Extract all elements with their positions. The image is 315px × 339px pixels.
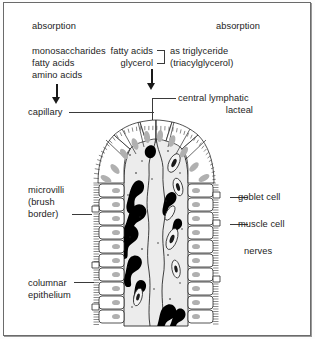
arrow-down-to-lacteal xyxy=(147,69,156,91)
label-central-lymphatic: central lymphatic xyxy=(178,93,249,105)
villus-illustration xyxy=(90,121,222,326)
diagram-frame: absorption monosaccharides fatty acids a… xyxy=(3,2,311,336)
label-columnar-line2: epithelium xyxy=(28,290,71,302)
right-columnar-epithelium xyxy=(188,184,213,323)
label-lacteal: lacteal xyxy=(178,105,253,117)
label-goblet-cell: goblet cell xyxy=(238,192,280,204)
label-nerves: nerves xyxy=(244,246,272,258)
arrow-down-to-capillary xyxy=(52,84,61,104)
label-absorption-right: absorption xyxy=(216,21,260,33)
label-microvilli-line3: border) xyxy=(28,209,58,221)
label-as-triglyceride: as triglyceride xyxy=(170,46,228,58)
right-microvilli xyxy=(213,185,219,324)
brace-triglyceride xyxy=(157,50,167,64)
label-microvilli-line1: microvilli xyxy=(28,185,64,197)
label-triacylglycerol: (triacylglycerol) xyxy=(170,58,233,70)
label-fatty-acids-right: fatty acids xyxy=(90,46,153,58)
label-microvilli-line2: (brush xyxy=(28,197,55,209)
label-columnar-line1: columnar xyxy=(28,278,67,290)
leader-capillary xyxy=(69,112,154,113)
diagram-page: absorption monosaccharides fatty acids a… xyxy=(0,0,315,339)
left-columnar-epithelium xyxy=(99,184,124,323)
label-amino-acids: amino acids xyxy=(32,70,82,82)
leader-lacteal-vertical xyxy=(152,98,153,120)
label-capillary: capillary xyxy=(28,107,63,119)
right-goblet-cells xyxy=(213,192,220,282)
leader-microvilli xyxy=(72,214,92,215)
label-glycerol: glycerol xyxy=(90,58,153,70)
label-fatty-acids-left: fatty acids xyxy=(32,58,74,70)
leader-lacteal-horizontal xyxy=(152,98,176,99)
label-absorption-left: absorption xyxy=(32,21,76,33)
label-muscle-cell: muscle cell xyxy=(238,219,285,231)
